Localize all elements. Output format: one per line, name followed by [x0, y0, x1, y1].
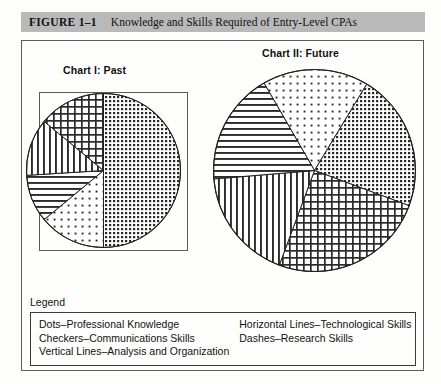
chart-one-heading: Chart I: Past [63, 64, 126, 76]
figure-title: Knowledge and Skills Required of Entry-L… [97, 16, 357, 28]
legend-column-right: Horizontal Lines–Technological Skills Da… [239, 318, 411, 359]
legend-item: Checkers–Communications Skills [39, 332, 229, 346]
legend: Legend Dots–Professional Knowledge Check… [30, 296, 416, 366]
pie-slice [104, 94, 181, 248]
chart-two-heading: Chart II: Future [262, 47, 339, 59]
figure-banner: FIGURE 1–1 Knowledge and Skills Required… [21, 12, 425, 32]
legend-box: Dots–Professional Knowledge Checkers–Com… [30, 312, 416, 366]
legend-label: Legend [30, 296, 416, 308]
chart-two-pie [212, 68, 417, 273]
legend-item: Dashes–Research Skills [239, 332, 411, 346]
legend-item: Vertical Lines–Analysis and Organization [39, 345, 229, 359]
legend-item: Horizontal Lines–Technological Skills [239, 318, 411, 332]
legend-column-left: Dots–Professional Knowledge Checkers–Com… [39, 318, 229, 359]
chart-one-pie [25, 92, 182, 249]
legend-item: Dots–Professional Knowledge [39, 318, 229, 332]
figure-number: FIGURE 1–1 [21, 16, 97, 28]
